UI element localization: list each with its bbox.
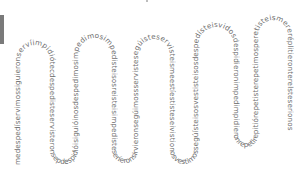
serpentine-text: medespedíservimossiguieronservíimpidióte… bbox=[0, 0, 295, 166]
serpentine-path-graphic: medespedíservimossiguieronservíimpidióte… bbox=[0, 0, 298, 174]
serpentine-text-path: medespedíservimossiguieronservíimpidióte… bbox=[0, 0, 295, 166]
text-on-path-canvas: medespedíservimossiguieronservíimpidióte… bbox=[0, 0, 298, 174]
